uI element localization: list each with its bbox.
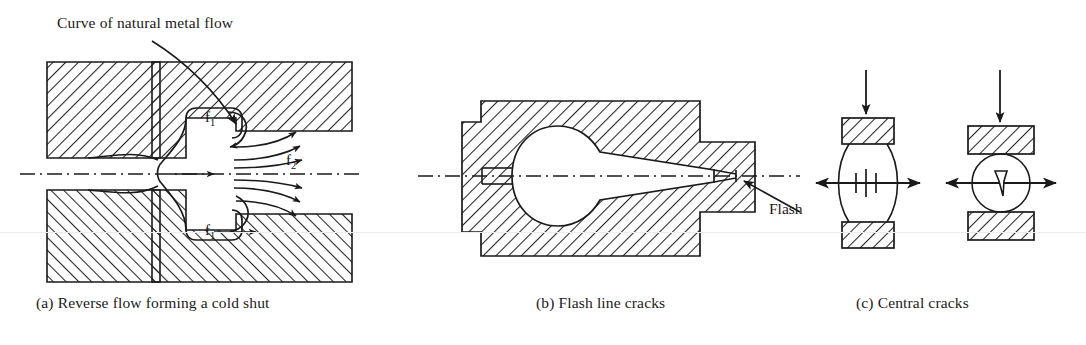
figure-root: Curve of natural metal flow Flash f1 f1 … xyxy=(0,0,1086,345)
panel-a-caption: (a) Reverse flow forming a cold shut xyxy=(36,294,270,312)
panel-b-caption: (b) Flash line cracks xyxy=(536,294,665,312)
flow-label-f2: f2 xyxy=(286,152,296,171)
scan-artifact-line xyxy=(0,232,1086,233)
flow-label-f1-bottom: f1 xyxy=(205,222,215,241)
panel-c-left-upper-die xyxy=(842,118,894,144)
curve-of-natural-metal-flow-label: Curve of natural metal flow xyxy=(57,14,233,32)
panel-c-right-lower-die xyxy=(968,212,1034,240)
panel-a-lower-right-die xyxy=(152,190,352,282)
flow-label-f1-bottom-sub: 1 xyxy=(210,230,215,241)
panel-a-upper-left-die xyxy=(47,62,160,158)
panel-c-right-setup xyxy=(946,70,1056,240)
panel-a-diagram xyxy=(20,41,360,282)
panel-c-left-setup xyxy=(816,70,920,248)
panel-c-right-upper-die xyxy=(968,126,1034,154)
flow-label-f2-sub: 2 xyxy=(291,160,296,171)
panel-a-flow-streamlines-lower xyxy=(234,180,302,216)
panel-c-left-lower-die xyxy=(842,222,894,248)
panel-a-lower-left-die xyxy=(47,190,160,282)
panel-c-diagram xyxy=(816,70,1056,248)
flow-label-f1-top: f1 xyxy=(205,109,215,128)
panel-a-upper-right-die xyxy=(152,62,352,158)
panel-c-caption: (c) Central cracks xyxy=(856,294,969,312)
flow-label-f1-top-sub: 1 xyxy=(210,117,215,128)
flash-label: Flash xyxy=(769,200,803,218)
